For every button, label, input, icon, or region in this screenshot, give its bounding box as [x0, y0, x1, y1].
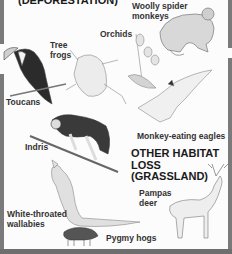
monkey-eating-eagle-illustration: [138, 70, 212, 122]
grassland-heading: OTHER HABITAT LOSS (GRASSLAND): [131, 148, 219, 183]
label-pampas-deer: Pampas deer: [139, 189, 172, 209]
label-toucans: Toucans: [6, 98, 40, 108]
deforestation-heading: (DEFORESTATION): [18, 0, 118, 7]
label-orchids: Orchids: [100, 30, 132, 40]
label-indris: Indris: [25, 143, 48, 153]
label-white-throated-wallabies: White-throated wallabies: [7, 210, 67, 230]
illustration-page: (DEFORESTATION) Woolly spider monkeys Tr…: [0, 0, 232, 254]
label-woolly-spider-monkeys: Woolly spider monkeys: [132, 2, 188, 22]
label-tree-frogs: Tree frogs: [50, 41, 71, 61]
label-monkey-eating-eagles: Monkey-eating eagles: [137, 132, 225, 142]
pygmy-hog-illustration: [64, 228, 98, 247]
label-pygmy-hogs: Pygmy hogs: [106, 234, 157, 244]
orchid-illustration: [128, 34, 159, 88]
tree-frog-illustration: [66, 50, 126, 104]
